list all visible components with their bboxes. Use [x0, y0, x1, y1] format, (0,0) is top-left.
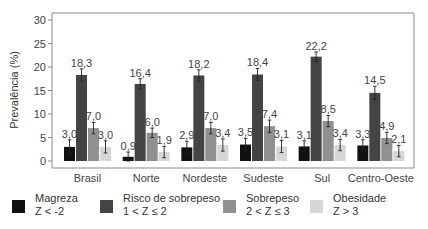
x-tick-label: Sudeste: [243, 172, 283, 184]
value-label: 3,0: [62, 128, 77, 140]
legend-swatch: [310, 200, 323, 213]
legend-label: Obesidade: [333, 192, 386, 205]
y-axis: 051015202530: [34, 14, 52, 167]
bar-group: 3,314,54,92,1: [355, 74, 406, 161]
bar-group: 3,122,28,53,4: [297, 40, 348, 161]
value-label: 7,4: [262, 108, 277, 120]
legend-swatch: [100, 200, 113, 213]
legend-item: Sobrepeso2 < Z ≤ 3: [223, 192, 299, 218]
value-label: 6,0: [145, 116, 160, 128]
value-label: 3,1: [274, 128, 289, 140]
value-label: 16,4: [129, 67, 150, 79]
plot-frame: [52, 13, 414, 168]
x-tick-label: Norte: [133, 172, 160, 184]
bar-group: 2,918,27,03,4: [179, 58, 230, 161]
legend-swatch: [223, 200, 236, 213]
bar-group: 3,518,47,43,1: [238, 56, 289, 161]
legend-sublabel: Z < -2: [35, 205, 78, 218]
x-tick-label: Nordeste: [183, 172, 228, 184]
y-tick-label: 20: [34, 61, 46, 73]
value-label: 3,0: [98, 129, 113, 141]
bar-group: 0,916,46,01,9: [121, 67, 172, 161]
value-label: 18,2: [188, 58, 209, 70]
value-label: 8,5: [321, 103, 336, 115]
value-label: 3,4: [215, 127, 230, 139]
value-label: 1,9: [157, 134, 172, 146]
legend-swatch: [12, 200, 25, 213]
value-label: 14,5: [364, 74, 385, 86]
x-tick-label: Centro-Oeste: [348, 172, 414, 184]
y-axis-label: Prevalência (%): [8, 51, 20, 129]
value-label: 4,9: [379, 120, 394, 132]
y-tick-label: 15: [34, 85, 46, 97]
bar-group: 3,018,37,03,0: [62, 57, 113, 161]
legend-sublabel: 2 < Z ≤ 3: [246, 205, 299, 218]
legend-sublabel: 1 < Z ≤ 2: [123, 205, 220, 218]
value-label: 3,3: [355, 128, 370, 140]
legend-item: Risco de sobrepeso1 < Z ≤ 2: [100, 192, 220, 218]
bar-chart: 051015202530 3,018,37,03,00,916,46,01,92…: [0, 0, 428, 192]
x-tick-label: Sul: [314, 172, 330, 184]
x-tick-label: Brasil: [74, 172, 102, 184]
y-tick-label: 25: [34, 38, 46, 50]
value-label: 3,1: [297, 129, 312, 141]
value-label: 2,1: [391, 133, 406, 145]
y-tick-label: 30: [34, 14, 46, 26]
value-label: 22,2: [305, 40, 326, 52]
legend-sublabel: Z > 3: [333, 205, 386, 218]
value-label: 18,4: [247, 56, 268, 68]
value-label: 3,4: [333, 127, 348, 139]
value-label: 7,0: [86, 110, 101, 122]
y-tick-label: 0: [40, 155, 46, 167]
value-label: 7,0: [203, 110, 218, 122]
y-tick-label: 10: [34, 108, 46, 120]
value-label: 0,9: [121, 140, 136, 152]
bars: 3,018,37,03,00,916,46,01,92,918,27,03,43…: [62, 40, 407, 161]
y-tick-label: 5: [40, 132, 46, 144]
value-label: 18,3: [71, 57, 92, 69]
value-label: 2,9: [179, 129, 194, 141]
legend-label: Magreza: [35, 192, 78, 205]
legend-item: MagrezaZ < -2: [12, 192, 78, 218]
plot-border: [52, 13, 414, 168]
value-label: 3,5: [238, 126, 253, 138]
legend: MagrezaZ < -2Risco de sobrepeso1 < Z ≤ 2…: [0, 192, 428, 229]
legend-label: Risco de sobrepeso: [123, 192, 220, 205]
legend-item: ObesidadeZ > 3: [310, 192, 386, 218]
legend-label: Sobrepeso: [246, 192, 299, 205]
x-axis-labels: BrasilNorteNordesteSudesteSulCentro-Oest…: [74, 172, 414, 184]
